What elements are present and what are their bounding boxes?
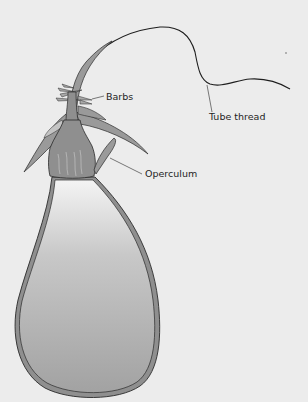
diagram-canvas: Barbs Tube thread Operculum <box>0 0 308 402</box>
spore-body <box>15 177 160 398</box>
operculum-label: Operculum <box>145 169 197 179</box>
operculum-flap <box>94 138 116 174</box>
speck <box>285 52 287 54</box>
barbs-leader-line <box>92 96 104 99</box>
spore-illustration <box>0 0 308 402</box>
tube-thread-label: Tube thread <box>209 112 265 122</box>
tube-thread-leader-line <box>207 85 212 112</box>
neck <box>66 92 78 122</box>
operculum-leader-line <box>110 158 142 174</box>
barbs-label: Barbs <box>106 92 133 102</box>
